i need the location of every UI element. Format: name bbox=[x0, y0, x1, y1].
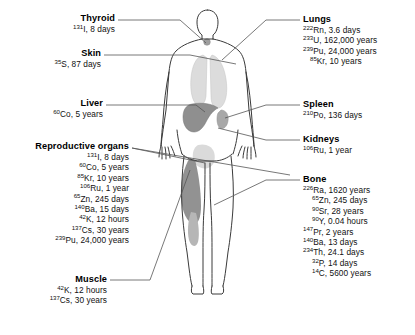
isotope-entry: 90Y, 0.04 hours bbox=[303, 216, 371, 226]
isotope-entry: 137Cs, 30 years bbox=[0, 295, 107, 305]
liver-shape bbox=[183, 103, 218, 132]
label-group-kidneys: Kidneys 106Ru, 1 year bbox=[303, 134, 352, 155]
organ-label-skin: Skin bbox=[0, 48, 101, 59]
organ-label-liver: Liver bbox=[0, 98, 103, 109]
head-outline bbox=[197, 10, 208, 39]
isotope-entry: 85Kr, 10 years bbox=[0, 173, 129, 183]
diagram-canvas: Thyroid 131I, 8 days Skin 35S, 87 days L… bbox=[0, 0, 415, 335]
label-group-reproductive-organs: Reproductive organs 131I, 8 days 60Co, 5… bbox=[0, 141, 129, 246]
isotope-entry: 35S, 87 days bbox=[0, 59, 101, 69]
foot-right-outline bbox=[211, 286, 223, 294]
label-group-liver: Liver 60Co, 5 years bbox=[0, 98, 103, 119]
organ-label-thyroid: Thyroid bbox=[0, 13, 115, 24]
lungs-shape bbox=[191, 55, 227, 108]
isotope-entry: 131I, 8 days bbox=[0, 152, 129, 162]
isotope-entry: 65Zn, 245 days bbox=[0, 194, 129, 204]
leader-bone bbox=[214, 180, 300, 205]
leg-left-inner bbox=[203, 163, 205, 286]
organ-label-reproductive-organs: Reproductive organs bbox=[0, 141, 129, 152]
organ-label-lungs: Lungs bbox=[303, 14, 377, 25]
spleen-shape bbox=[217, 110, 228, 129]
leader-kidneys bbox=[218, 128, 300, 140]
leader-thyroid bbox=[118, 20, 206, 43]
isotope-entry: 60Co, 5 years bbox=[0, 109, 103, 119]
isotope-entry: 222Rn, 3.6 days bbox=[303, 25, 377, 35]
hand-right-outline bbox=[238, 146, 256, 159]
label-group-spleen: Spleen 210Po, 136 days bbox=[303, 99, 362, 120]
label-group-thyroid: Thyroid 131I, 8 days bbox=[0, 13, 115, 34]
isotope-entry: 85Kr, 10 years bbox=[303, 56, 377, 66]
leader-lungs bbox=[222, 20, 300, 60]
foot-left-outline bbox=[191, 286, 203, 294]
isotope-entry: 42K, 12 hours bbox=[0, 214, 129, 224]
isotope-entry: 60Co, 5 years bbox=[0, 162, 129, 172]
isotope-entry: 106Ru, 1 year bbox=[0, 183, 129, 193]
head-outline-right bbox=[208, 10, 219, 39]
hand-left-outline bbox=[159, 146, 175, 159]
isotope-entry: 140Ba, 13 days bbox=[303, 237, 371, 247]
body-figure bbox=[159, 10, 256, 294]
isotope-entry: 210Po, 136 days bbox=[303, 110, 362, 120]
leader-spleen bbox=[225, 105, 300, 118]
label-group-lungs: Lungs 222Rn, 3.6 days 233U, 162,000 year… bbox=[303, 14, 377, 67]
isotope-entry: 147Pr, 2 years bbox=[303, 227, 371, 237]
label-group-skin: Skin 35S, 87 days bbox=[0, 48, 101, 69]
isotope-entry: 239Pu, 24,000 years bbox=[0, 235, 129, 245]
isotope-entry: 131I, 8 days bbox=[0, 24, 115, 34]
isotope-entry: 140Ba, 15 days bbox=[0, 204, 129, 214]
isotope-entry: 106Ru, 1 year bbox=[303, 145, 352, 155]
organ-label-muscle: Muscle bbox=[0, 274, 107, 285]
organ-label-bone: Bone bbox=[303, 174, 371, 185]
leg-right-outline bbox=[223, 156, 233, 286]
leg-right-inner bbox=[210, 163, 212, 286]
isotope-entry: 233U, 162,000 years bbox=[303, 35, 377, 45]
label-group-bone: Bone 226Ra, 1620 years 65Zn, 245 days 90… bbox=[303, 174, 371, 279]
isotope-entry: 14C, 5600 years bbox=[303, 268, 371, 278]
label-group-muscle: Muscle 42K, 12 hours 137Cs, 30 years bbox=[0, 274, 107, 306]
